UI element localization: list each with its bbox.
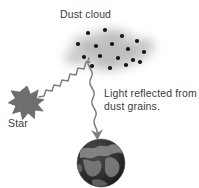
dust-grain [110,42,114,46]
dust-grain [86,31,90,35]
dust-grain [103,28,107,32]
dust-grain [98,54,102,58]
star [8,86,44,120]
dust-grain [126,47,130,51]
label-dust-cloud: Dust cloud [60,8,111,21]
label-light-reflected-line1: Light reflected from [104,87,199,100]
dust-cloud [58,24,160,76]
dust-grain [142,50,146,54]
astronomy-diagram: Dust cloud Star Light reflected from dus… [0,0,199,188]
planet-earth [76,139,125,187]
label-light-reflected: Light reflected from dust grains. [104,87,199,112]
dust-grain [131,58,135,62]
star-shape [8,86,44,120]
dust-grain [76,42,80,46]
dust-grain [108,66,112,70]
dust-grain [82,55,86,59]
label-star: Star [8,117,28,130]
dust-grain [124,63,128,67]
dust-grain [135,39,139,43]
dust-grain [120,34,124,38]
dust-grain [138,60,142,64]
dust-grain [94,44,98,48]
label-light-reflected-line2: dust grains. [104,100,199,113]
dust-grain [116,56,120,60]
